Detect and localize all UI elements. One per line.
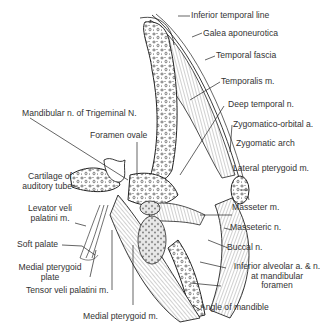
label-plate-line2: plate [12, 273, 88, 283]
label-medial-pterygoid-muscle: Medial pterygoid m. [83, 312, 158, 322]
label-lateral-pterygoid-muscle: Lateral pterygoid m. [233, 164, 309, 174]
label-masseteric-nerve: Masseteric n. [230, 223, 281, 233]
label-galea-aponeurotica: Galea aponeurotica [203, 29, 278, 39]
label-temporal-fascia: Temporal fascia [216, 51, 276, 61]
label-soft-palate: Soft palate [17, 240, 58, 250]
label-levator-veli-palatini: Levator veli palatini m. [20, 204, 80, 223]
label-inferior-temporal-line: Inferior temporal line [191, 11, 269, 21]
label-cartilage-auditory-tube: Cartilage of auditory tube [10, 172, 72, 191]
label-cartilage-line2: auditory tube [10, 182, 72, 192]
label-mandibular-nerve: Mandibular n. of Trigeminal N. [22, 109, 137, 119]
label-levator-line2: palatini m. [20, 214, 80, 224]
label-inferior-alveolar: Inferior alveolar a. & n. at mandibular … [222, 262, 330, 291]
label-foramen-ovale: Foramen ovale [90, 131, 147, 141]
label-buccal-nerve: Buccal n. [227, 243, 262, 253]
label-angle-of-mandible: Angle of mandible [200, 303, 269, 313]
label-deep-temporal-nerve: Deep temporal n. [228, 100, 294, 110]
label-zygomatico-orbital-artery: Zygomatico-orbital a. [233, 120, 313, 130]
label-zygomatic-arch: Zygomatic arch [236, 139, 295, 149]
label-medial-pterygoid-plate: Medial pterygoid plate [12, 263, 88, 282]
label-masseter-muscle: Masseter m. [232, 203, 279, 213]
label-temporalis-muscle: Temporalis m. [221, 77, 274, 87]
label-inferior-alveolar-line3: foramen [222, 281, 330, 291]
label-tensor-veli-palatini: Tensor veli palatini m. [26, 286, 109, 296]
